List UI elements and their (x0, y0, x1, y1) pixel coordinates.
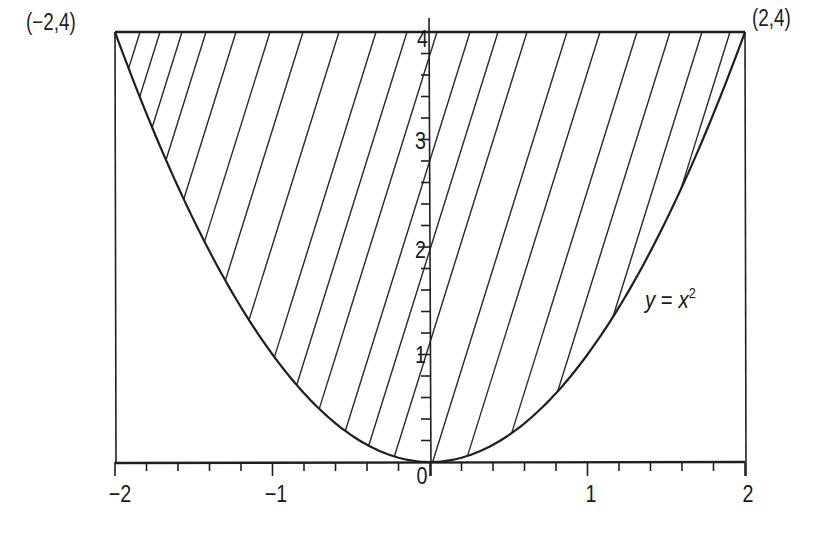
y-tick-label: 3 (410, 127, 426, 155)
axes (115, 18, 746, 476)
x-tick-label: −2 (109, 480, 131, 508)
right-point-label: (2,4) (752, 7, 791, 30)
curve-equation-label: y = x2 (645, 284, 696, 314)
x-tick-label: 2 (743, 480, 754, 508)
x-tick-label: −1 (265, 480, 287, 508)
y-tick-label: 2 (410, 236, 426, 264)
y-tick-label: 1 (410, 341, 426, 369)
left-point-label: (−2,4) (26, 11, 76, 34)
x-tick-label: 0 (417, 462, 428, 490)
x-tick-label: 1 (586, 480, 597, 508)
y-tick-label: 4 (412, 25, 428, 53)
